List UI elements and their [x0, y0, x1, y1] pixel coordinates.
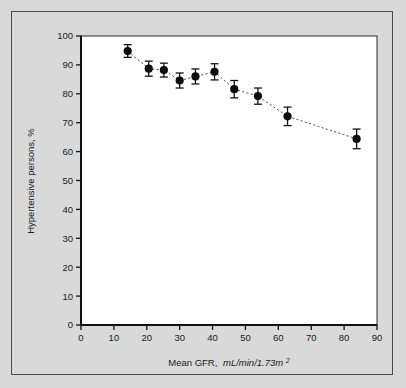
x-tick-label: 80	[339, 332, 350, 343]
y-tick-label: 100	[57, 30, 73, 41]
x-axis-title-units-exponent: 2	[285, 357, 290, 364]
plot-area	[81, 36, 377, 325]
y-tick-label: 30	[62, 233, 73, 244]
x-tick-label: 70	[306, 332, 317, 343]
y-tick-label: 20	[62, 262, 73, 273]
x-tick-label: 10	[109, 332, 120, 343]
x-tick-label: 60	[273, 332, 284, 343]
y-tick-label: 70	[62, 117, 73, 128]
y-tick-label: 90	[62, 59, 73, 70]
data-point-marker	[191, 72, 199, 80]
y-tick-label: 50	[62, 175, 73, 186]
x-axis-title: Mean GFR, mL/min/1.73m 2	[168, 357, 290, 369]
chart-canvas: 0102030405060708090100 01020304050607080…	[0, 0, 406, 388]
data-point-marker	[210, 68, 218, 76]
x-tick-label: 40	[207, 332, 218, 343]
figure-panel: 0102030405060708090100 01020304050607080…	[0, 0, 406, 388]
x-tick-label: 90	[372, 332, 383, 343]
data-point-marker	[160, 66, 168, 74]
y-axis-title: Hypertensive persons, %	[25, 128, 36, 234]
y-tick-label: 80	[62, 88, 73, 99]
data-point-marker	[124, 47, 132, 55]
x-tick-label: 20	[141, 332, 152, 343]
x-tick-label: 50	[240, 332, 251, 343]
y-tick-label: 0	[68, 319, 73, 330]
data-point-marker	[353, 135, 361, 143]
y-tick-label: 10	[62, 291, 73, 302]
data-point-marker	[145, 65, 153, 73]
x-tick-label: 0	[78, 332, 83, 343]
x-axis-title-units: mL/min/1.73m	[223, 357, 283, 368]
x-tick-label: 30	[174, 332, 185, 343]
data-point-marker	[283, 112, 291, 120]
y-tick-label: 60	[62, 146, 73, 157]
data-point-marker	[176, 76, 184, 84]
data-point-marker	[254, 92, 262, 100]
x-axis-tick-labels: 0102030405060708090	[78, 332, 382, 343]
y-tick-label: 40	[62, 204, 73, 215]
y-axis-tick-labels: 0102030405060708090100	[57, 30, 73, 330]
x-axis-title-main: Mean GFR,	[168, 357, 217, 368]
data-point-marker	[230, 85, 238, 93]
